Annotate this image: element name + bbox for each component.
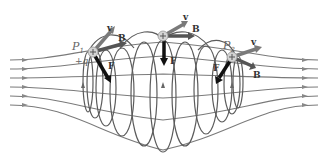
- magnetic-bottle-diagram: P1 +q v B F v B F P2 v B F: [0, 0, 327, 162]
- label-charge: +q: [75, 57, 88, 66]
- label-b-p1: B: [118, 34, 126, 43]
- label-b-top: B: [192, 25, 200, 34]
- label-v-top: v: [183, 13, 188, 22]
- label-f-p2: F: [213, 64, 219, 73]
- label-f-p1: F: [108, 62, 114, 71]
- label-b-p2: B: [253, 71, 261, 80]
- label-v-p2: v: [251, 38, 256, 47]
- field-lines-and-loops: [0, 0, 327, 162]
- label-f-top: F: [170, 57, 176, 66]
- label-p1: P1: [72, 41, 84, 55]
- label-p2: P2: [223, 40, 235, 54]
- label-v-p1: v: [107, 24, 112, 33]
